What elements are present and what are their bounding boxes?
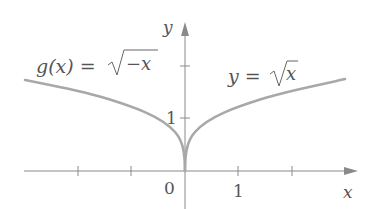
x-tick-label-1: 1	[233, 181, 244, 201]
x-axis-label: x	[343, 182, 353, 202]
x-axis-arrow-icon	[344, 167, 358, 175]
origin-label: 0	[164, 178, 175, 198]
left-curve-label: g(x) =	[36, 55, 96, 77]
curve-g-sqrt-neg-x	[25, 80, 185, 171]
y-tick-label-1: 1	[166, 108, 177, 128]
right-curve-label: y =	[227, 65, 261, 87]
sqrt-graph: y x 0 1 1 g(x) = −x y = x	[0, 0, 367, 209]
y-axis-arrow-icon	[181, 22, 189, 36]
y-axis-label: y	[162, 17, 173, 37]
curve-sqrt-x	[185, 79, 345, 171]
right-curve-radicand: x	[286, 63, 296, 84]
left-curve-radicand: −x	[126, 53, 151, 74]
